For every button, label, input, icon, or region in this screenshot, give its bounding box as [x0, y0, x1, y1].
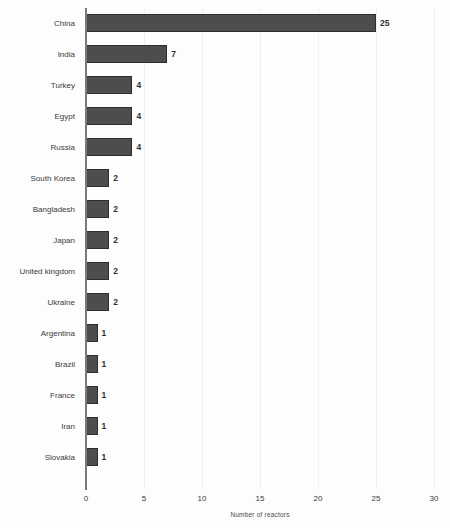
value-axis-tick-label: 0	[84, 494, 88, 503]
value-axis-tick-label: 5	[142, 494, 146, 503]
category-label: Brazil	[0, 349, 80, 380]
bar-value-label: 4	[136, 77, 141, 93]
bar	[86, 355, 98, 373]
category-label: Turkey	[0, 70, 80, 101]
category-label: India	[0, 39, 80, 70]
value-axis-tick-label: 20	[314, 494, 323, 503]
category-label: Ukraine	[0, 287, 80, 318]
bar	[86, 14, 376, 32]
category-label: Egypt	[0, 101, 80, 132]
bar-row: 1	[86, 318, 434, 349]
bar-chart: 2574442222211111 ChinaIndiaTurkeyEgyptRu…	[0, 0, 450, 528]
category-label: Argentina	[0, 318, 80, 349]
value-axis-title: Number of reactors	[86, 511, 434, 518]
bar-row: 2	[86, 256, 434, 287]
plot-area: 2574442222211111	[86, 8, 434, 490]
bar	[86, 169, 109, 187]
bar-value-label: 2	[113, 294, 118, 310]
bar-row: 25	[86, 8, 434, 39]
category-label: Iran	[0, 411, 80, 442]
bar	[86, 293, 109, 311]
bar-row: 1	[86, 442, 434, 473]
bar	[86, 76, 132, 94]
bar-value-label: 1	[102, 387, 107, 403]
bar-value-label: 1	[102, 418, 107, 434]
bar-row: 2	[86, 194, 434, 225]
bar-row: 1	[86, 349, 434, 380]
bar-value-label: 2	[113, 232, 118, 248]
gridline	[434, 8, 435, 490]
bar	[86, 262, 109, 280]
bar-row: 2	[86, 287, 434, 318]
bar-row: 4	[86, 132, 434, 163]
bar-value-label: 1	[102, 325, 107, 341]
category-label: South Korea	[0, 163, 80, 194]
bar	[86, 138, 132, 156]
bar-row: 2	[86, 225, 434, 256]
bar-value-label: 2	[113, 170, 118, 186]
bar-value-label: 2	[113, 263, 118, 279]
category-axis-line	[85, 8, 87, 490]
value-axis-tick-label: 30	[430, 494, 439, 503]
value-axis-tick-label: 10	[198, 494, 207, 503]
category-label: Japan	[0, 225, 80, 256]
bar-row: 2	[86, 163, 434, 194]
bar	[86, 324, 98, 342]
category-label: China	[0, 8, 80, 39]
bar-value-label: 4	[136, 108, 141, 124]
value-axis-tick-label: 25	[372, 494, 381, 503]
bar	[86, 45, 167, 63]
bar-value-label: 4	[136, 139, 141, 155]
category-label: Slovakia	[0, 442, 80, 473]
bar-row: 4	[86, 70, 434, 101]
category-label: Bangladesh	[0, 194, 80, 225]
value-axis: 051015202530 Number of reactors	[86, 490, 434, 528]
bar-value-label: 2	[113, 201, 118, 217]
bar-value-label: 1	[102, 356, 107, 372]
bar	[86, 200, 109, 218]
bar	[86, 417, 98, 435]
category-label: France	[0, 380, 80, 411]
bar-row: 1	[86, 380, 434, 411]
bar-row: 7	[86, 39, 434, 70]
bar	[86, 448, 98, 466]
bar	[86, 386, 98, 404]
bar-value-label: 7	[171, 46, 176, 62]
bar	[86, 107, 132, 125]
bar-value-label: 1	[102, 449, 107, 465]
value-axis-tick-label: 15	[256, 494, 265, 503]
category-label: United kingdom	[0, 256, 80, 287]
category-label: Russia	[0, 132, 80, 163]
bar	[86, 231, 109, 249]
bar-row: 4	[86, 101, 434, 132]
category-labels: ChinaIndiaTurkeyEgyptRussiaSouth KoreaBa…	[0, 8, 80, 490]
bar-value-label: 25	[380, 15, 389, 31]
bar-row: 1	[86, 411, 434, 442]
